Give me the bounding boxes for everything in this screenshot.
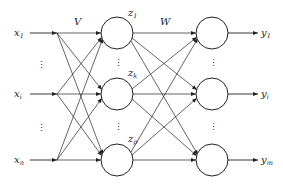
hidden-label-z1: z1 xyxy=(127,7,137,20)
hidden-ellipsis-2: ⋮ xyxy=(114,122,123,132)
input-node-x1: x1 xyxy=(14,27,24,40)
weight-label-v: V xyxy=(74,16,83,27)
v-weight-connections xyxy=(57,33,103,160)
output-ellipsis-2: ⋮ xyxy=(209,122,218,132)
input-ellipsis-1: ⋮ xyxy=(37,60,46,70)
hidden-node-zk xyxy=(101,78,133,110)
hidden-label-zp: zp xyxy=(127,133,138,146)
hidden-ellipsis-1: ⋮ xyxy=(114,58,123,68)
output-node-ym xyxy=(196,144,228,176)
hidden-node-zp xyxy=(101,144,133,176)
weight-label-w: W xyxy=(160,16,171,27)
output-label-ym: ym xyxy=(260,154,273,167)
output-ellipsis-1: ⋮ xyxy=(209,58,218,68)
hidden-label-zk: zk xyxy=(127,67,137,80)
output-node-y1 xyxy=(196,17,228,49)
hidden-node-z1 xyxy=(101,17,133,49)
output-connections xyxy=(228,33,258,160)
output-label-y1: y1 xyxy=(260,27,271,40)
svg-text:x1: x1 xyxy=(14,27,24,40)
output-node-yi xyxy=(196,78,228,110)
input-node-xn: xn xyxy=(14,154,24,167)
svg-text:xi: xi xyxy=(14,88,22,101)
input-connections xyxy=(30,33,57,160)
svg-text:xn: xn xyxy=(14,154,24,167)
input-ellipsis-2: ⋮ xyxy=(37,123,46,133)
w-weight-connections xyxy=(131,33,198,160)
output-label-yi: yi xyxy=(260,88,269,101)
neural-network-diagram: V W x1 xi xn ⋮ ⋮ z1 zk zp ⋮ ⋮ xyxy=(0,0,283,189)
input-node-xi: xi xyxy=(14,88,22,101)
